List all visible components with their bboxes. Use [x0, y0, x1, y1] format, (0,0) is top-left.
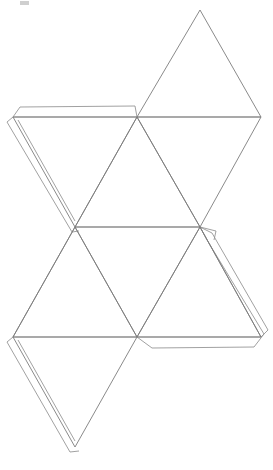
- face-lower-down-fill: [13, 337, 137, 447]
- face-top-up-fill: [137, 10, 261, 117]
- face-mid-left-fill: [13, 227, 137, 337]
- face-fills: [13, 10, 261, 447]
- polyhedron-net-figure: [0, 0, 273, 470]
- tab-upper-left-top: [13, 106, 137, 117]
- caption-strip: [0, 456, 273, 470]
- scan-corner-mark: [20, 1, 29, 5]
- net-drawing: [0, 0, 273, 470]
- face-mid-right-fill: [137, 227, 261, 337]
